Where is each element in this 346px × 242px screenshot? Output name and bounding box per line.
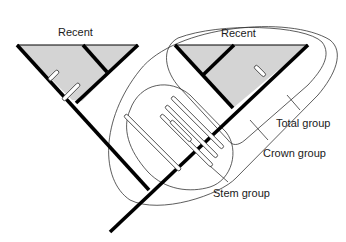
extinct-lineage: [165, 105, 219, 159]
recent-label-left: Recent: [58, 26, 93, 38]
total-group-label: Total group: [276, 117, 330, 129]
stem-group-outline: [127, 85, 233, 190]
recent-zone-right: [175, 45, 308, 108]
recent-label-right: Recent: [221, 27, 256, 39]
stem-group-label: Stem group: [213, 187, 270, 199]
recent-zone-left: [17, 45, 138, 101]
crown-group-label: Crown group: [263, 147, 326, 159]
phylogeny-diagram: Recent Recent Total group Crown group St…: [0, 0, 346, 242]
stem-group-leader: [210, 166, 228, 182]
crown-group-leader: [250, 120, 268, 140]
